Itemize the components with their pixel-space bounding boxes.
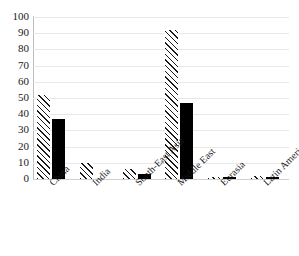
bar xyxy=(37,95,50,179)
y-tick-label: 40 xyxy=(0,108,29,119)
y-tick-label: 100 xyxy=(0,11,29,22)
y-tick-label: 0 xyxy=(0,173,29,184)
y-tick-label: 90 xyxy=(0,27,29,38)
bar-group xyxy=(80,17,108,179)
y-tick-label: 70 xyxy=(0,60,29,71)
bar-chart: 0102030405060708090100 ChinaIndiaSouth-E… xyxy=(0,0,299,256)
y-tick-label: 80 xyxy=(0,43,29,54)
y-tick-label: 50 xyxy=(0,92,29,103)
y-tick-label: 20 xyxy=(0,141,29,152)
x-axis-tick-labels: ChinaIndiaSouth-East AsiaMiddle EastEura… xyxy=(33,180,289,256)
y-axis-tick-labels: 0102030405060708090100 xyxy=(0,17,29,179)
bar-group xyxy=(251,17,279,179)
y-tick-label: 10 xyxy=(0,157,29,168)
bar-group xyxy=(123,17,151,179)
y-tick-label: 30 xyxy=(0,124,29,135)
y-tick-label: 60 xyxy=(0,76,29,87)
bar-group xyxy=(37,17,65,179)
bar xyxy=(80,163,93,179)
